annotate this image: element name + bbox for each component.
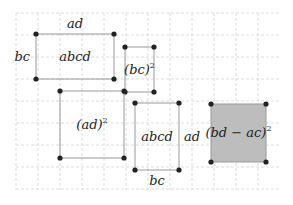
vertex-dot: [57, 88, 62, 93]
area-label: abcd: [59, 49, 91, 64]
rect-abcd-top: abcdadbc: [14, 16, 116, 82]
grid-lines: [16, 13, 279, 190]
diagram-canvas: abcdadbc(bc)2(ad)2abcdadbc(bd − ac)2: [0, 0, 293, 205]
rect-ad-squared: (ad)2: [57, 88, 126, 160]
area-label: (ad)2: [76, 116, 107, 132]
side-label-bottom: bc: [149, 173, 165, 188]
side-label-right: ad: [184, 129, 200, 144]
vertex-dot: [57, 155, 62, 160]
exponent: 2: [266, 124, 271, 133]
rectangles: abcdadbc(bc)2(ad)2abcdadbc(bd − ac)2: [14, 16, 271, 188]
vertex-dot: [208, 159, 213, 164]
vertex-dot: [132, 100, 137, 105]
side-label-left: bc: [14, 49, 30, 64]
vertex-dot: [132, 167, 137, 172]
vertex-dot: [121, 88, 126, 93]
side-label-top: ad: [67, 16, 83, 31]
exponent: 2: [150, 61, 155, 70]
vertex-dot: [121, 155, 126, 160]
area-label: abcd: [141, 129, 173, 144]
area-label: (bd − ac)2: [205, 124, 271, 140]
rect-abcd-bottom: abcdadbc: [132, 100, 200, 188]
vertex-dot: [33, 31, 38, 36]
vertex-dot: [176, 100, 181, 105]
rect-bc-squared: (bc)2: [122, 44, 156, 94]
vertex-dot: [111, 76, 116, 81]
vertex-dot: [111, 31, 116, 36]
exponent: 2: [103, 116, 108, 125]
area-label: (bc)2: [124, 61, 155, 77]
vertex-dot: [122, 44, 127, 49]
vertex-dot: [151, 44, 156, 49]
vertex-dot: [263, 101, 268, 106]
vertex-dot: [263, 159, 268, 164]
vertex-dot: [208, 101, 213, 106]
vertex-dot: [151, 89, 156, 94]
vertex-dot: [33, 76, 38, 81]
vertex-dot: [176, 167, 181, 172]
rect-bd-ac-squared: (bd − ac)2: [205, 101, 271, 164]
